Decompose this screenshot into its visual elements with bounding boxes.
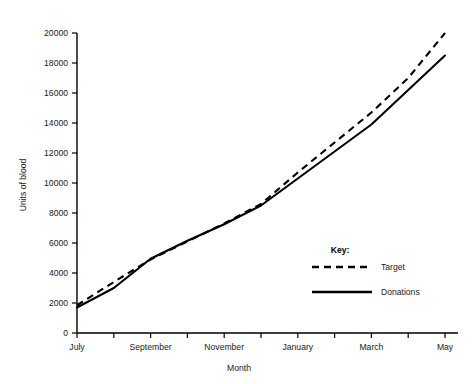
- y-axis-tick-labels: 0200040006000800010000120001400016000180…: [44, 28, 68, 338]
- y-axis-ticks: [72, 33, 77, 333]
- y-tick-label: 2000: [49, 298, 68, 308]
- y-tick-label: 10000: [44, 178, 68, 188]
- y-tick-label: 14000: [44, 118, 68, 128]
- legend-label-donations: Donations: [381, 287, 420, 297]
- x-axis-ticks: [77, 333, 445, 338]
- chart-legend: Key: Target Donations: [312, 245, 420, 297]
- x-tick-label: November: [204, 342, 244, 352]
- legend-label-target: Target: [381, 262, 405, 272]
- y-tick-label: 18000: [44, 58, 68, 68]
- x-tick-label: May: [437, 342, 454, 352]
- y-tick-label: 16000: [44, 88, 68, 98]
- blood-donations-line-chart: 0200040006000800010000120001400016000180…: [0, 0, 474, 384]
- y-tick-label: 4000: [49, 268, 68, 278]
- y-tick-label: 6000: [49, 238, 68, 248]
- y-axis-title: Units of blood: [18, 159, 28, 212]
- y-tick-label: 8000: [49, 208, 68, 218]
- y-tick-label: 20000: [44, 28, 68, 38]
- x-axis-tick-labels: JulySeptemberNovemberJanuaryMarchMay: [69, 342, 453, 352]
- y-tick-label: 0: [63, 328, 68, 338]
- chart-canvas: 0200040006000800010000120001400016000180…: [0, 0, 474, 384]
- x-tick-label: March: [359, 342, 383, 352]
- y-tick-label: 12000: [44, 148, 68, 158]
- x-tick-label: September: [130, 342, 172, 352]
- x-axis-title: Month: [227, 363, 251, 373]
- x-tick-label: July: [69, 342, 85, 352]
- x-tick-label: January: [283, 342, 314, 352]
- legend-title: Key:: [331, 245, 350, 255]
